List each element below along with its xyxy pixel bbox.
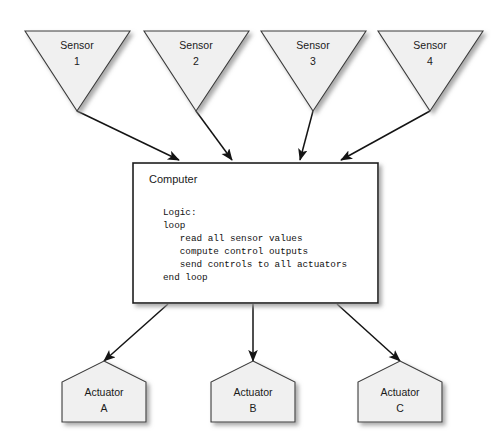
- sensor-name-3: Sensor: [296, 39, 330, 51]
- sensor-node-4[interactable]: Sensor 4: [378, 31, 483, 111]
- computer-title: Computer: [149, 173, 198, 185]
- sensor-node-3[interactable]: Sensor 3: [261, 31, 366, 111]
- computer-logic-line-0: Logic:: [163, 207, 196, 218]
- sensor-name-4: Sensor: [413, 39, 447, 51]
- connectors-computer-to-actuators: [104, 304, 400, 361]
- actuator-name-A: Actuator: [84, 386, 124, 398]
- sensor-node-2[interactable]: Sensor 2: [144, 31, 249, 111]
- sensor-name-2: Sensor: [179, 39, 213, 51]
- connectors-sensors-to-computer: [77, 111, 430, 160]
- sensor-id-3: 3: [310, 55, 316, 67]
- computer-logic-line-3: compute control outputs: [163, 246, 308, 257]
- computer-logic-line-5: end loop: [163, 272, 208, 283]
- actuator-node-C[interactable]: Actuator C: [358, 361, 442, 422]
- edge-computer-to-actuatorA: [104, 304, 168, 361]
- edge-sensor1-to-computer: [77, 111, 179, 160]
- sensor-id-4: 4: [427, 55, 433, 67]
- computer-logic-line-4: send controls to all actuators: [163, 259, 347, 270]
- sensor-id-1: 1: [74, 55, 80, 67]
- edge-sensor3-to-computer: [300, 111, 313, 160]
- sensor-node-1[interactable]: Sensor 1: [25, 31, 130, 111]
- actuator-id-B: B: [249, 402, 256, 414]
- actuator-name-B: Actuator: [233, 386, 273, 398]
- edge-sensor4-to-computer: [341, 111, 430, 160]
- actuator-node-B[interactable]: Actuator B: [211, 361, 295, 422]
- edge-sensor2-to-computer: [196, 111, 232, 160]
- actuator-id-A: A: [100, 402, 107, 414]
- edge-computer-to-actuatorC: [337, 304, 400, 361]
- computer-node[interactable]: Computer Logic: loop read all sensor val…: [133, 163, 378, 303]
- diagram-canvas: Sensor 1 Sensor 2 Sensor 3 Sensor 4 Comp…: [0, 0, 498, 444]
- computer-logic-line-1: loop: [163, 220, 185, 231]
- sensor-id-2: 2: [193, 55, 199, 67]
- computer-logic-line-2: read all sensor values: [163, 233, 302, 244]
- actuator-name-C: Actuator: [380, 386, 420, 398]
- actuator-id-C: C: [396, 402, 404, 414]
- diagram-svg: Sensor 1 Sensor 2 Sensor 3 Sensor 4 Comp…: [0, 0, 498, 444]
- sensor-name-1: Sensor: [60, 39, 94, 51]
- actuator-node-A[interactable]: Actuator A: [62, 361, 146, 422]
